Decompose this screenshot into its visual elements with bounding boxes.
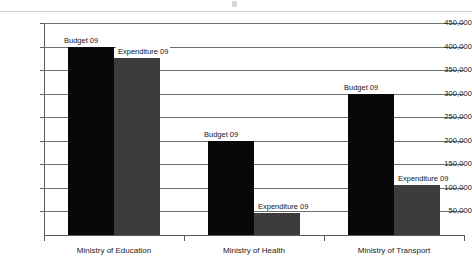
y-axis-tick [40, 47, 44, 48]
x-axis-tick [464, 236, 465, 241]
y-axis-tick [40, 141, 44, 142]
y-axis-tick-label: 200,000 [436, 137, 472, 145]
y-axis-tick-label: 300,000 [436, 90, 472, 98]
bar-value-label: Expenditure 09 [396, 174, 450, 184]
plot-area: Budget 09Expenditure 09Budget 09Expendit… [44, 23, 464, 236]
bar-value-label: Budget 09 [62, 36, 100, 46]
bar-value-label: Budget 09 [202, 130, 240, 140]
top-border-line [0, 11, 472, 12]
bar-value-label: Expenditure 09 [256, 202, 310, 212]
bar-expenditure [394, 185, 440, 235]
bar-budget [68, 47, 114, 235]
scan-artifact-mark [232, 1, 237, 7]
x-axis-line [44, 235, 465, 236]
y-axis-tick [40, 117, 44, 118]
y-axis-tick-label: 400,000 [436, 43, 472, 51]
bar-chart: Budget 09Expenditure 09Budget 09Expendit… [0, 0, 472, 267]
category-label: Ministry of Transport [324, 247, 464, 255]
y-axis-tick-label: 450,000 [436, 19, 472, 27]
y-axis-tick [40, 211, 44, 212]
gridline [44, 23, 464, 24]
category-label: Ministry of Education [44, 247, 184, 255]
bar-value-label: Budget 09 [342, 83, 380, 93]
x-axis-tick [324, 236, 325, 241]
bar-budget [348, 94, 394, 235]
bar-value-label: Expenditure 09 [116, 47, 170, 57]
x-axis-tick [44, 236, 45, 241]
y-axis-tick-label: 150,000 [436, 160, 472, 168]
y-axis-line [44, 23, 45, 236]
bar-expenditure [114, 58, 160, 235]
y-axis-tick [40, 94, 44, 95]
y-axis-tick-label: 250,000 [436, 113, 472, 121]
category-label: Ministry of Health [184, 247, 324, 255]
y-axis-tick [40, 23, 44, 24]
x-axis-tick [184, 236, 185, 241]
y-axis-tick-label: 350,000 [436, 66, 472, 74]
y-axis-tick [40, 188, 44, 189]
bar-expenditure [254, 213, 300, 235]
bar-budget [208, 141, 254, 235]
y-axis-tick-label: 100,000 [436, 184, 472, 192]
y-axis-tick-label: 50,000 [436, 207, 472, 215]
y-axis-tick [40, 164, 44, 165]
y-axis-tick [40, 70, 44, 71]
